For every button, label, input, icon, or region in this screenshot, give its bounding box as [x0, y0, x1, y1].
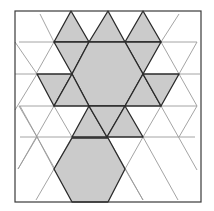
- pattern-block-diagram: [0, 0, 214, 211]
- hexagon-piece: [54, 138, 125, 202]
- triangle-piece: [89, 11, 125, 42]
- triangle-piece: [125, 11, 161, 42]
- diagram-canvas: [0, 0, 214, 211]
- triangle-piece: [54, 11, 89, 42]
- pattern-pieces: [37, 11, 179, 202]
